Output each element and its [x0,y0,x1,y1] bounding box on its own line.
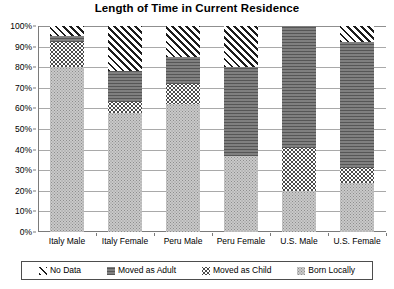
x-axis: Italy MaleItaly FemalePeru MalePeru Fema… [38,233,386,249]
chart-container: Length of Time in Current Residence 100%… [0,0,394,289]
bar-segment[interactable] [282,191,316,232]
bar-segment[interactable] [340,42,374,168]
y-axis-tick [33,170,36,171]
y-axis-tick-label: 90% [15,42,32,52]
y-axis-tick-label: 80% [15,62,32,72]
stacked-bar[interactable] [108,26,142,232]
legend-swatch-icon [107,267,115,275]
bar-segment[interactable] [340,168,374,182]
x-axis-tick [270,233,271,236]
bar-slot [212,26,270,232]
legend-label: Moved as Child [213,266,272,275]
y-axis: 100%90%80%70%60%50%40%30%20%10%0% [0,26,36,232]
y-axis-tick-label: 40% [15,145,32,155]
y-axis-tick [33,190,36,191]
y-axis-tick-label: 100% [10,21,32,31]
bar-segment[interactable] [50,42,84,67]
x-axis-tick [386,233,387,236]
bar-segment[interactable] [166,84,200,105]
bar-segment[interactable] [50,36,84,42]
bar-slot [328,26,386,232]
y-axis-tick [33,108,36,109]
stacked-bar[interactable] [50,26,84,232]
bar-slot [38,26,96,232]
legend-swatch-icon [297,267,305,275]
bar-segment[interactable] [282,148,316,191]
legend-item[interactable]: Born Locally [297,266,355,275]
bar-segment[interactable] [340,183,374,232]
x-axis-category-label: Italy Male [49,236,85,246]
bar-slot [270,26,328,232]
legend-item[interactable]: Moved as Adult [107,266,176,275]
bar-segment[interactable] [108,71,142,102]
y-axis-tick [33,232,36,233]
bar-segment[interactable] [108,113,142,232]
legend-item[interactable]: No Data [39,266,81,275]
y-axis-tick-label: 70% [15,83,32,93]
x-axis-category-label: U.S. Female [333,236,380,246]
stacked-bar[interactable] [340,26,374,232]
legend-swatch-icon [39,267,47,275]
bar-segment[interactable] [50,26,84,36]
bar-segment[interactable] [282,26,316,148]
bar-segment[interactable] [224,67,258,156]
bar-segment[interactable] [166,57,200,84]
bar-segment[interactable] [224,26,258,67]
y-axis-tick-label: 60% [15,103,32,113]
x-axis-category-label: U.S. Male [280,236,317,246]
bar-segment[interactable] [108,26,142,71]
bar-segment[interactable] [340,26,374,42]
y-axis-tick-label: 30% [15,165,32,175]
y-axis-tick [33,46,36,47]
x-axis-tick [212,233,213,236]
y-axis-tick [33,211,36,212]
bar-slot [154,26,212,232]
bars-layer [38,26,386,232]
y-axis-tick [33,67,36,68]
bar-segment[interactable] [108,102,142,112]
legend-label: No Data [50,266,81,275]
stacked-bar[interactable] [224,26,258,232]
legend-label: Born Locally [308,266,355,275]
bar-segment[interactable] [166,104,200,232]
bar-segment[interactable] [50,67,84,232]
legend-swatch-icon [202,267,210,275]
x-axis-category-label: Italy Female [102,236,148,246]
y-axis-tick [33,87,36,88]
bar-segment[interactable] [166,26,200,57]
y-axis-tick-label: 20% [15,186,32,196]
chart-title: Length of Time in Current Residence [0,2,394,14]
y-axis-tick-label: 0% [20,227,32,237]
chart-legend: No DataMoved as AdultMoved as ChildBorn … [21,261,373,280]
y-axis-tick-label: 50% [15,124,32,134]
x-axis-tick [328,233,329,236]
y-axis-tick [33,149,36,150]
stacked-bar[interactable] [282,26,316,232]
bar-segment[interactable] [224,156,258,232]
stacked-bar[interactable] [166,26,200,232]
bar-slot [96,26,154,232]
x-axis-tick [96,233,97,236]
x-axis-category-label: Peru Male [164,236,203,246]
legend-label: Moved as Adult [118,266,176,275]
x-axis-tick [154,233,155,236]
legend-item[interactable]: Moved as Child [202,266,272,275]
y-axis-tick [33,129,36,130]
y-axis-tick-label: 10% [15,206,32,216]
x-axis-category-label: Peru Female [217,236,266,246]
y-axis-tick [33,26,36,27]
